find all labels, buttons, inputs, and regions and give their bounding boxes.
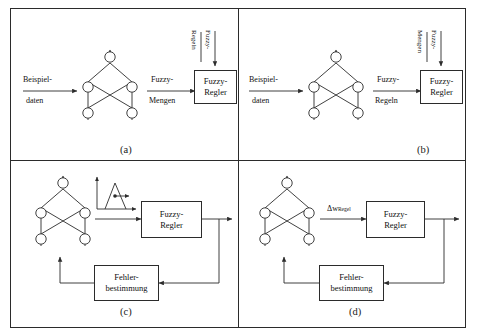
controller-label-line1: Fuzzy- bbox=[204, 76, 228, 87]
input-arrow-label-bottom: daten bbox=[26, 97, 43, 106]
input-arrow-label-bottom: daten bbox=[252, 97, 269, 106]
controller-label-line1: Fuzzy- bbox=[384, 209, 408, 220]
panel-a: Fuzzy- Regler Beispiel- daten Fuzzy- Men… bbox=[10, 8, 238, 168]
controller-label-line1: Fuzzy- bbox=[160, 209, 184, 220]
error-determination-box-c: Fehler- bestimmung bbox=[94, 265, 159, 301]
fuzzy-controller-box-c: Fuzzy- Regler bbox=[141, 201, 202, 238]
delta-symbol: Δw bbox=[327, 204, 338, 213]
network-a bbox=[83, 50, 137, 120]
panel-c: Fuzzy- Regler Fehler- bestimmung (c) bbox=[10, 169, 238, 329]
panel-d: Fuzzy- Regler Fehler- bestimmung ΔwRegel… bbox=[239, 169, 467, 329]
panel-label-c: (c) bbox=[120, 306, 132, 317]
fuzzy-controller-box-a: Fuzzy- Regler bbox=[194, 70, 237, 104]
panel-label-a: (a) bbox=[120, 144, 132, 155]
delta-weight-label: ΔwRegel bbox=[327, 205, 351, 214]
error-label-line2: bestimmung bbox=[105, 283, 147, 294]
error-label-line2: bestimmung bbox=[330, 283, 372, 294]
network-c bbox=[36, 176, 90, 246]
membership-function-plot-c bbox=[97, 177, 136, 209]
vertical-label-left: Regeln bbox=[190, 30, 198, 50]
vertical-label-right: Fuzzy- bbox=[204, 30, 212, 49]
fuzzy-controller-box-d: Fuzzy- Regler bbox=[366, 201, 425, 238]
vertical-label-right: Fuzzy- bbox=[430, 30, 438, 49]
error-label-line1: Fehler- bbox=[114, 272, 138, 283]
controller-label-line2: Regler bbox=[204, 87, 227, 98]
delta-subscript: Regel bbox=[338, 206, 351, 212]
mid-arrow-label-bottom: Mengen bbox=[149, 97, 175, 106]
panel-label-d: (d) bbox=[349, 306, 361, 317]
mid-arrow-label-top: Fuzzy- bbox=[151, 76, 173, 85]
mid-arrow-label-bottom: Regeln bbox=[375, 97, 398, 106]
panel-b: Fuzzy- Regler Beispiel- daten Fuzzy- Reg… bbox=[239, 8, 467, 168]
panel-label-b: (b) bbox=[417, 144, 429, 155]
vertical-label-left: Mengen bbox=[416, 30, 424, 53]
error-label-line1: Fehler- bbox=[339, 272, 363, 283]
input-arrow-label-top: Beispiel- bbox=[249, 76, 278, 85]
fuzzy-controller-box-b: Fuzzy- Regler bbox=[420, 70, 463, 104]
controller-label-line2: Regler bbox=[430, 87, 453, 98]
figure-root: Fuzzy- Regler Beispiel- daten Fuzzy- Men… bbox=[0, 0, 477, 336]
controller-label-line1: Fuzzy- bbox=[430, 76, 454, 87]
error-determination-box-d: Fehler- bestimmung bbox=[319, 265, 384, 301]
controller-label-line2: Regler bbox=[384, 220, 407, 231]
network-b bbox=[309, 50, 363, 120]
network-d bbox=[260, 176, 314, 246]
mid-arrow-label-top: Fuzzy- bbox=[377, 76, 399, 85]
controller-label-line2: Regler bbox=[160, 220, 183, 231]
input-arrow-label-top: Beispiel- bbox=[23, 76, 52, 85]
